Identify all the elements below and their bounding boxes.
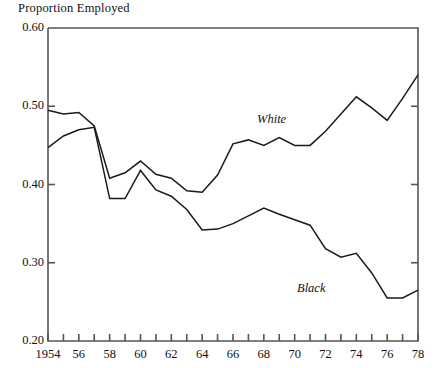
series-line-white xyxy=(48,75,418,192)
chart-axes xyxy=(48,28,418,341)
x-tick-label: 74 xyxy=(350,347,363,362)
x-tick-label: 64 xyxy=(196,347,209,362)
chart-series-lines xyxy=(48,75,418,298)
y-tick-label: 0.30 xyxy=(2,255,44,270)
x-tick-label: 66 xyxy=(227,347,240,362)
x-tick-label: 62 xyxy=(165,347,178,362)
x-tick-label: 78 xyxy=(412,347,425,362)
y-tick-label: 0.50 xyxy=(2,98,44,113)
x-tick-label: 76 xyxy=(381,347,394,362)
x-tick-label: 58 xyxy=(103,347,116,362)
x-tick-label: 56 xyxy=(73,347,86,362)
x-tick-label: 70 xyxy=(288,347,301,362)
x-tick-label: 1954 xyxy=(36,347,61,362)
chart-plot-area xyxy=(0,0,438,368)
x-tick-label: 72 xyxy=(319,347,332,362)
y-tick-label: 0.20 xyxy=(2,333,44,348)
series-label-black: Black xyxy=(297,281,325,296)
series-line-black xyxy=(48,127,418,298)
chart-root: Proportion Employed 0.600.500.400.300.20… xyxy=(0,0,438,368)
x-tick-label: 68 xyxy=(258,347,271,362)
series-label-white: White xyxy=(257,112,286,127)
y-tick-label: 0.40 xyxy=(2,177,44,192)
y-tick-label: 0.60 xyxy=(2,20,44,35)
x-tick-label: 60 xyxy=(134,347,147,362)
